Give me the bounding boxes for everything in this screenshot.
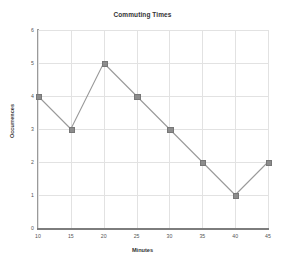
chart-title: Commuting Times [0, 11, 285, 19]
y-tick-label: 1 [22, 192, 34, 198]
y-tick-label: 5 [22, 60, 34, 66]
x-tick-label: 40 [225, 233, 245, 239]
chart-figure: Commuting Times Occurrences 0123456 1015… [0, 0, 285, 272]
y-tick-label: 0 [22, 225, 34, 231]
x-tick-label: 45 [258, 233, 278, 239]
x-axis-line [37, 228, 269, 230]
data-point-marker [134, 94, 140, 100]
y-axis-title: Occurrences [9, 76, 15, 166]
x-tick-labels: 1015202530354045 [38, 233, 268, 241]
y-tick-label: 3 [22, 126, 34, 132]
x-tick-label: 30 [159, 233, 179, 239]
x-tick-label: 25 [127, 233, 147, 239]
data-point-marker [167, 127, 173, 133]
data-point-marker [102, 61, 108, 67]
x-tick-label: 20 [94, 233, 114, 239]
data-point-marker [200, 160, 206, 166]
plot-area [38, 30, 268, 228]
y-tick-label: 4 [22, 93, 34, 99]
data-point-marker [233, 193, 239, 199]
x-tick-label: 15 [61, 233, 81, 239]
x-axis-title: Minutes [0, 247, 285, 253]
y-tick-labels: 0123456 [20, 30, 34, 228]
y-tick-label: 2 [22, 159, 34, 165]
data-point-marker [36, 94, 42, 100]
gridline-vertical [268, 30, 269, 228]
data-point-marker [69, 127, 75, 133]
data-point-marker [266, 160, 272, 166]
x-tick-label: 35 [192, 233, 212, 239]
x-tick-label: 10 [28, 233, 48, 239]
y-tick-label: 6 [22, 27, 34, 33]
